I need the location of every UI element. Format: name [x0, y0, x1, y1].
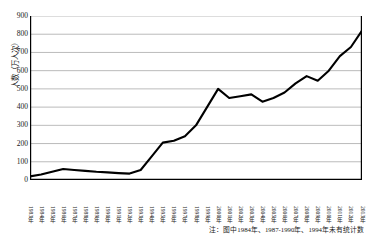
y-axis-tick-labels: 0100200300400500600700800900: [6, 0, 28, 238]
x-axis-tick: 2005年: [269, 206, 278, 223]
x-axis-tick: 2002年: [236, 206, 245, 223]
x-axis-tick: 1991年: [114, 206, 123, 223]
x-axis-tick: 2013年: [358, 206, 367, 223]
x-axis-tick: 1998年: [192, 206, 201, 223]
x-axis-tick: 1995年: [158, 206, 167, 223]
x-axis-tick: 2003年: [247, 206, 256, 223]
y-axis-tick: 700: [6, 48, 28, 56]
x-axis-tick: 2001年: [225, 206, 234, 223]
x-axis-tick: 1999年: [203, 206, 212, 223]
plot-area: [30, 16, 362, 180]
x-axis-tick: 1990年: [103, 206, 112, 223]
y-axis-tick: 300: [6, 121, 28, 129]
y-axis-tick: 100: [6, 158, 28, 166]
x-axis-tick: 2007年: [291, 206, 300, 223]
y-axis-tick: 500: [6, 85, 28, 93]
y-axis-tick: 0: [6, 176, 28, 184]
gridlines: [30, 16, 362, 162]
x-axis-tick: 1987年: [70, 206, 79, 223]
y-axis-tick: 800: [6, 30, 28, 38]
x-axis-tick: 1992年: [125, 206, 134, 223]
x-axis-tick: 2011年: [335, 206, 344, 223]
x-axis-tick: 2009年: [313, 206, 322, 223]
x-axis-tick: 1988年: [81, 206, 90, 223]
y-axis-tick: 400: [6, 103, 28, 111]
x-axis-tick: 1996年: [169, 206, 178, 223]
chart-note: 注：图中1984年、1987-1990年、1994年未有统计数: [0, 224, 364, 234]
x-axis-tick: 1984年: [37, 206, 46, 223]
x-axis-tick: 1994年: [147, 206, 156, 223]
x-axis-tick: 2012年: [346, 206, 355, 223]
y-axis-tick: 200: [6, 140, 28, 148]
x-axis-tick: 2008年: [302, 206, 311, 223]
y-axis-tick: 600: [6, 67, 28, 75]
x-axis-tick: 2010年: [324, 206, 333, 223]
x-axis-tick: 1989年: [92, 206, 101, 223]
x-axis-tick: 1985年: [48, 206, 57, 223]
x-axis-tick: 1993年: [136, 206, 145, 223]
line-chart: 人数（万人次） 0100200300400500600700800900 198…: [0, 0, 369, 238]
x-axis-tick: 2004年: [258, 206, 267, 223]
x-axis-tick: 1986年: [59, 206, 68, 223]
x-axis-tick-labels: 1983年1984年1985年1986年1987年1988年1989年1990年…: [30, 181, 362, 223]
x-axis-tick: 2000年: [214, 206, 223, 223]
x-axis-tick: 1983年: [26, 206, 35, 223]
y-axis-tick: 900: [6, 12, 28, 20]
x-axis-tick: 1997年: [180, 206, 189, 223]
x-axis-tick: 2006年: [280, 206, 289, 223]
